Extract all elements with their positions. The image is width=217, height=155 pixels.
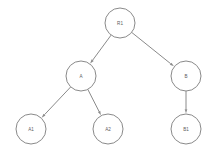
edge-r1-to-b xyxy=(132,32,174,66)
node-label: R1 xyxy=(117,21,123,26)
arrowhead-icon xyxy=(185,109,188,113)
diagram-canvas: R1ABA1A2B1 xyxy=(0,0,217,155)
node-a1[interactable]: A1 xyxy=(16,114,46,144)
edge-line xyxy=(88,89,99,111)
node-b1[interactable]: B1 xyxy=(171,114,201,144)
tree-diagram: R1ABA1A2B1 xyxy=(0,0,217,155)
node-label: A1 xyxy=(28,127,34,132)
arrowhead-icon xyxy=(98,111,101,115)
edge-line xyxy=(132,32,171,63)
edge-layer xyxy=(42,32,188,117)
node-label: A2 xyxy=(105,127,111,132)
node-a2[interactable]: A2 xyxy=(93,114,123,144)
edge-a-to-a1 xyxy=(42,87,71,118)
node-r1[interactable]: R1 xyxy=(105,8,135,38)
node-label: B1 xyxy=(183,127,189,132)
edge-b-to-b1 xyxy=(185,91,188,114)
edge-r1-to-a xyxy=(90,35,111,63)
node-b[interactable]: B xyxy=(171,61,201,91)
node-label: B xyxy=(184,74,187,79)
edge-a-to-a2 xyxy=(88,89,101,115)
node-layer: R1ABA1A2B1 xyxy=(16,8,201,144)
node-a[interactable]: A xyxy=(66,61,96,91)
edge-line xyxy=(93,35,111,60)
edge-line xyxy=(45,87,71,115)
